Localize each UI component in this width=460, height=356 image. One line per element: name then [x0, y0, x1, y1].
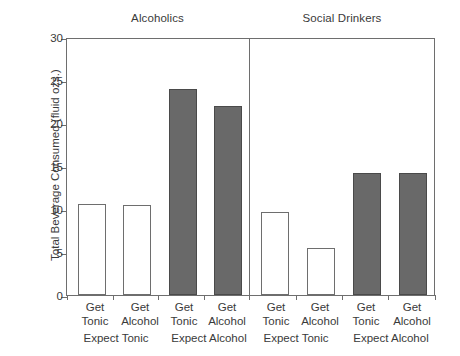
panel-title-social-drinkers: Social Drinkers: [249, 12, 435, 24]
panel-divider: [249, 39, 250, 295]
y-tick-label-0: 0: [23, 290, 63, 302]
bar-social-expect-alcohol-get-alcohol: [399, 173, 427, 295]
x-tick-5: [296, 295, 297, 300]
x-tick-8: [435, 295, 436, 300]
x-tick-2: [158, 295, 159, 300]
x-tick-4: [249, 295, 250, 300]
panel-title-alcoholics: Alcoholics: [66, 12, 249, 24]
x-tick-7: [388, 295, 389, 300]
x-tick-3: [204, 295, 205, 300]
y-tick-label-5: 5: [23, 247, 63, 259]
x-tick-0: [67, 295, 68, 300]
x-label-bar-7-line2: Alcohol: [380, 315, 444, 329]
y-tick-label-10: 10: [23, 204, 63, 216]
y-tick-label-20: 20: [23, 118, 63, 130]
x-tick-6: [342, 295, 343, 300]
bar-alcoholics-expect-tonic-get-tonic: [78, 204, 106, 295]
y-tick-label-15: 15: [23, 161, 63, 173]
bar-alcoholics-expect-alcohol-get-alcohol: [214, 106, 242, 295]
bar-chart-figure: Alcoholics Social Drinkers Total Beverag…: [0, 0, 460, 356]
bar-social-expect-tonic-get-tonic: [261, 212, 289, 295]
bar-alcoholics-expect-tonic-get-alcohol: [123, 205, 151, 295]
x-label-bar-7: Get Alcohol: [380, 301, 444, 328]
x-tick-1: [113, 295, 114, 300]
bar-alcoholics-expect-alcohol-get-tonic: [169, 89, 197, 295]
y-tick-label-30: 30: [23, 32, 63, 44]
y-tick-label-25: 25: [23, 75, 63, 87]
x-label-bar-7-line1: Get: [380, 301, 444, 315]
bar-social-expect-alcohol-get-tonic: [353, 173, 381, 295]
group-label-social-expect-alcohol: Expect Alcohol: [324, 332, 458, 344]
bar-social-expect-tonic-get-alcohol: [307, 248, 335, 295]
plot-area: 0 5 10 15 20 25: [66, 38, 435, 296]
